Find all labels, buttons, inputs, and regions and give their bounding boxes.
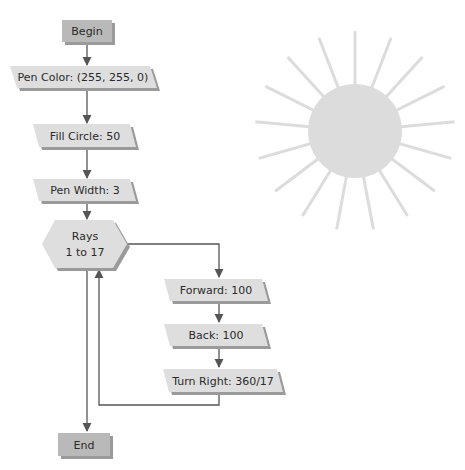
loop-label-line2: 1 to 17 bbox=[65, 246, 104, 259]
fill-circle-label: Fill Circle: 50 bbox=[50, 130, 120, 143]
step-back[interactable]: Back: 100 bbox=[164, 324, 271, 349]
begin-node[interactable]: Begin bbox=[62, 20, 115, 45]
turn-right-label: Turn Right: 360/17 bbox=[171, 375, 274, 388]
loop-node[interactable]: Rays 1 to 17 bbox=[42, 220, 130, 271]
loop-label-line1: Rays bbox=[72, 230, 99, 243]
step-fill-circle[interactable]: Fill Circle: 50 bbox=[33, 124, 139, 150]
step-turn-right[interactable]: Turn Right: 360/17 bbox=[163, 369, 286, 395]
step-forward[interactable]: Forward: 100 bbox=[164, 279, 271, 304]
step-pen-width[interactable]: Pen Width: 3 bbox=[33, 179, 139, 204]
flowchart-canvas: Begin Pen Color: (255, 255, 0) Fill Circ… bbox=[0, 0, 465, 470]
begin-label: Begin bbox=[71, 25, 102, 38]
end-node[interactable]: End bbox=[58, 433, 113, 459]
sun-circle bbox=[308, 84, 402, 178]
forward-label: Forward: 100 bbox=[180, 284, 252, 297]
sun-illustration bbox=[255, 31, 454, 229]
arrow-loop-to-forward bbox=[127, 244, 219, 277]
pen-color-label: Pen Color: (255, 255, 0) bbox=[18, 71, 149, 84]
back-label: Back: 100 bbox=[189, 329, 244, 342]
end-label: End bbox=[74, 439, 95, 452]
pen-width-label: Pen Width: 3 bbox=[50, 184, 120, 197]
step-pen-color[interactable]: Pen Color: (255, 255, 0) bbox=[10, 66, 160, 91]
loop-hexagon bbox=[42, 220, 127, 268]
